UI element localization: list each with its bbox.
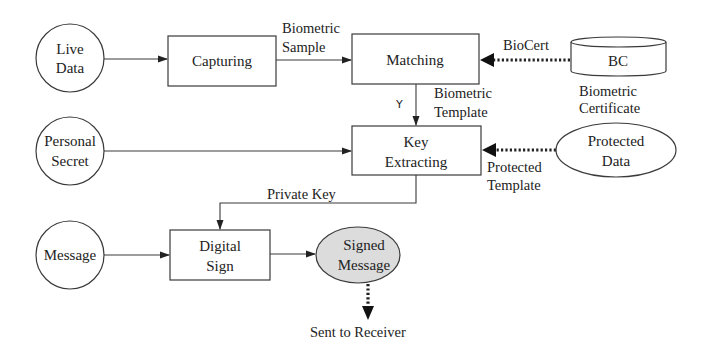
diagram-canvas: Biometric Sample BioCert Y Biometric Tem… bbox=[0, 0, 704, 360]
node-digital-sign: Digital Sign bbox=[170, 230, 270, 280]
edge-label-biometric-template-2: Template bbox=[434, 104, 488, 120]
node-matching: Matching bbox=[352, 34, 479, 84]
node-signed-message: Signed Message bbox=[316, 227, 400, 283]
node-label: Data bbox=[602, 153, 631, 169]
node-sent-to-receiver: Sent to Receiver bbox=[310, 324, 406, 340]
node-label: BC bbox=[608, 53, 628, 69]
condition-label-y: Y bbox=[395, 98, 403, 111]
edge-biometric-template: Y Biometric Template bbox=[395, 84, 492, 125]
node-label: Data bbox=[56, 60, 85, 76]
node-label: Key bbox=[404, 134, 429, 150]
node-label: Sent to Receiver bbox=[310, 324, 406, 340]
edge-label-protected: Protected bbox=[487, 159, 543, 175]
edge-label-template: Template bbox=[487, 177, 541, 193]
node-bc-database: BC Biometric Certificate bbox=[571, 37, 666, 116]
node-label: Matching bbox=[386, 52, 444, 68]
node-label: Message bbox=[44, 247, 97, 263]
node-capturing: Capturing bbox=[168, 36, 276, 86]
edge-label-biometric-template-1: Biometric bbox=[434, 85, 492, 101]
node-caption: Biometric bbox=[579, 83, 637, 99]
edge-signed-to-receiver bbox=[362, 284, 374, 320]
node-protected-data: Protected Data bbox=[556, 123, 676, 177]
edge-label-private-key: Private Key bbox=[267, 186, 337, 202]
edge-private-key: Private Key bbox=[220, 175, 416, 229]
arrowhead-icon bbox=[362, 306, 374, 320]
edge-protected-template: Protected Template bbox=[482, 143, 556, 193]
node-key-extracting: Key Extracting bbox=[352, 126, 481, 175]
edge-label-sample: Sample bbox=[282, 39, 326, 55]
node-label: Sign bbox=[206, 258, 234, 274]
node-label: Message bbox=[338, 257, 391, 273]
node-message: Message bbox=[36, 221, 104, 289]
node-label: Digital bbox=[199, 238, 241, 254]
node-label: Signed bbox=[343, 237, 385, 253]
edge-label-biometric: Biometric bbox=[282, 20, 340, 36]
arrowhead-icon bbox=[480, 53, 494, 67]
node-live-data: Live Data bbox=[36, 24, 104, 92]
edge-label-biocert: BioCert bbox=[503, 37, 549, 53]
node-label: Secret bbox=[51, 153, 89, 169]
node-label: Live bbox=[56, 41, 84, 57]
edge-biometric-sample: Biometric Sample bbox=[276, 20, 351, 60]
node-caption: Certificate bbox=[579, 100, 640, 116]
node-label: Protected bbox=[588, 133, 645, 149]
node-label: Extracting bbox=[385, 154, 448, 170]
node-personal-secret: Personal Secret bbox=[36, 117, 104, 185]
arrowhead-icon bbox=[482, 143, 496, 157]
edge-biocert: BioCert bbox=[480, 37, 570, 67]
node-label: Capturing bbox=[192, 53, 252, 69]
node-label: Personal bbox=[44, 133, 96, 149]
